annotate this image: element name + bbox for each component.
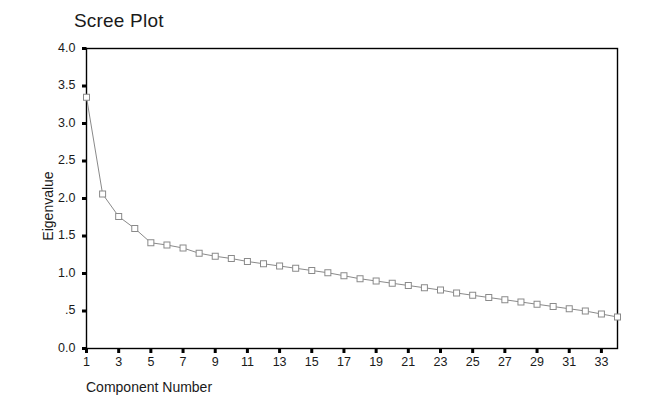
plot-canvas (0, 0, 649, 420)
eigenvalue-markers (84, 94, 621, 320)
eigenvalue-line (87, 97, 618, 317)
scree-plot-figure: Scree Plot Eigenvalue Component Number 0… (0, 0, 649, 420)
